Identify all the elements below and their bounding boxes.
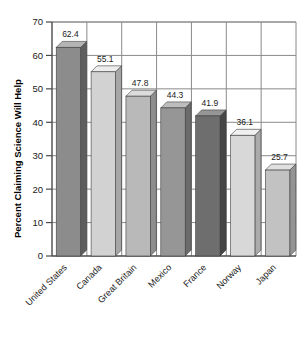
- bar-group: [56, 41, 86, 256]
- y-tick-label: 70: [32, 16, 43, 27]
- bar-value-label: 44.3: [167, 90, 184, 100]
- bar-group: [265, 164, 295, 256]
- bar-group: [126, 90, 156, 256]
- bar-front-face: [126, 96, 150, 256]
- y-tick-label: 30: [32, 150, 43, 161]
- bar-group: [196, 110, 226, 256]
- y-tick-label: 50: [32, 83, 43, 94]
- bar-side-face: [290, 164, 296, 256]
- bar-value-label: 36.1: [236, 117, 253, 127]
- bar-side-face: [150, 90, 156, 256]
- bar-value-label: 47.8: [132, 78, 149, 88]
- bar-chart: Percent Claiming Science Will Help 01020…: [0, 0, 307, 340]
- bar-front-face: [91, 72, 115, 256]
- bar-side-face: [81, 41, 87, 256]
- y-tick-label: 10: [32, 217, 43, 228]
- bar-side-face: [255, 129, 261, 256]
- y-tick-label: 0: [38, 250, 43, 261]
- bar-group: [231, 129, 261, 256]
- bar-front-face: [56, 47, 80, 256]
- y-tick-label: 60: [32, 50, 43, 61]
- bar-side-face: [185, 102, 191, 256]
- bar-front-face: [196, 116, 220, 256]
- y-axis-title-text: Percent Claiming Science Will Help: [12, 79, 23, 238]
- bar-value-label: 41.9: [202, 98, 219, 108]
- bar-side-face: [220, 110, 226, 256]
- bar-value-label: 55.1: [97, 54, 114, 64]
- y-tick-label: 20: [32, 184, 43, 195]
- bar-front-face: [265, 170, 289, 256]
- bar-group: [91, 66, 121, 256]
- chart-canvas: Percent Claiming Science Will Help 01020…: [0, 0, 307, 340]
- y-tick-label: 40: [32, 117, 43, 128]
- bar-front-face: [231, 135, 255, 256]
- bar-value-label: 25.7: [271, 152, 288, 162]
- bar-side-face: [115, 66, 121, 256]
- bar-front-face: [161, 108, 185, 256]
- y-axis-title: Percent Claiming Science Will Help: [12, 79, 23, 238]
- bar-value-label: 62.4: [62, 29, 79, 39]
- bar-group: [161, 102, 191, 256]
